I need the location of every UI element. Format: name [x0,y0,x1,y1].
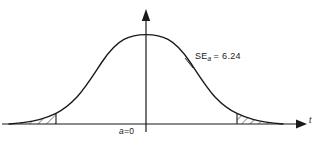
se-equals-sign: = [214,51,220,61]
y-axis [142,9,150,132]
y-axis-arrowhead-icon [142,9,150,21]
se-value: 6.24 [222,51,241,61]
x-axis-arrowhead-icon [296,120,307,129]
se-symbol: SE [195,51,208,61]
mean-value: 0 [129,126,134,136]
normal-distribution-figure: SEa=6.24 a=0 t [0,0,321,150]
se-subscript: a [208,55,212,62]
distribution-plot [0,0,321,150]
mean-annotation: a=0 [119,127,134,136]
x-axis-label: t [309,116,311,125]
standard-error-annotation: SEa=6.24 [195,52,241,63]
